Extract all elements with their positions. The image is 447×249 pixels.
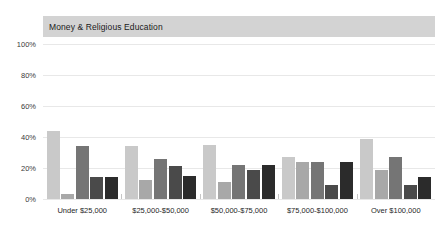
group-divider-tick — [357, 194, 358, 199]
bar — [360, 139, 373, 199]
bar — [90, 177, 103, 199]
group-divider-tick — [121, 194, 122, 199]
bar — [404, 185, 417, 199]
y-axis-tick-label: 100% — [0, 40, 36, 49]
bar — [139, 180, 152, 199]
bar-group — [200, 44, 278, 199]
plot-area — [43, 44, 435, 199]
y-axis: 0%20%40%60%80%100% — [0, 0, 38, 249]
bar — [76, 146, 89, 199]
bar-group — [278, 44, 356, 199]
bar — [218, 182, 231, 199]
bar — [232, 165, 245, 199]
x-axis-tick-label: $75,000-$100,000 — [287, 206, 348, 215]
y-axis-tick-label: 60% — [0, 102, 36, 111]
bar — [203, 145, 216, 199]
x-axis-tick-label: Over $100,000 — [371, 206, 421, 215]
bar-group — [43, 44, 121, 199]
bar — [418, 177, 431, 199]
bar-group — [357, 44, 435, 199]
y-axis-tick-label: 0% — [0, 195, 36, 204]
group-divider-tick — [278, 194, 279, 199]
bar — [125, 146, 138, 199]
bar — [262, 165, 275, 199]
chart-title: Money & Religious Education — [49, 22, 163, 32]
group-divider-tick — [200, 194, 201, 199]
bar — [47, 131, 60, 199]
bar — [154, 159, 167, 199]
bar-group — [121, 44, 199, 199]
chart-title-band: Money & Religious Education — [43, 16, 435, 37]
gridline — [43, 199, 435, 200]
y-axis-tick-label: 40% — [0, 133, 36, 142]
bar — [296, 162, 309, 199]
bar — [340, 162, 353, 199]
bar — [183, 176, 196, 199]
bar — [325, 185, 338, 199]
x-axis-tick-label: $25,000-$50,000 — [132, 206, 189, 215]
x-axis-tick-label: $50,000-$75,000 — [211, 206, 268, 215]
bar — [247, 170, 260, 199]
bar — [105, 177, 118, 199]
y-axis-tick-label: 80% — [0, 71, 36, 80]
x-axis-tick-label: Under $25,000 — [57, 206, 107, 215]
y-axis-tick-label: 20% — [0, 164, 36, 173]
bar — [375, 170, 388, 199]
chart-container: Money & Religious Education 0%20%40%60%8… — [0, 0, 447, 249]
bar — [389, 157, 402, 199]
bar — [169, 166, 182, 199]
bar — [61, 194, 74, 199]
bar — [311, 162, 324, 199]
bar — [282, 157, 295, 199]
